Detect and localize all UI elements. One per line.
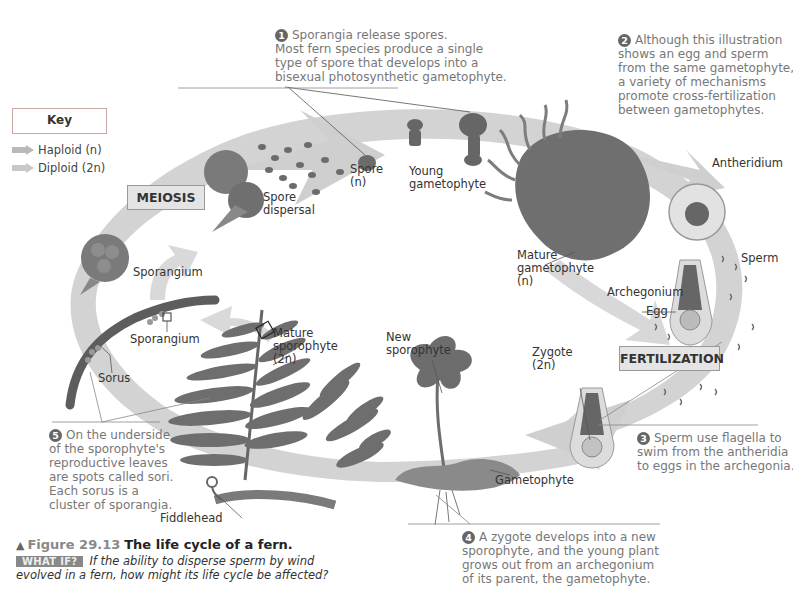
step-number-badge: 3 — [637, 432, 650, 445]
label-egg: Egg — [646, 305, 668, 318]
step-4: 4A zygote develops into a new sporophyte… — [462, 530, 659, 586]
figure-number: Figure 29.13 — [27, 537, 120, 552]
diploid-arrow-icon — [12, 163, 34, 173]
caption-title-line: ▲Figure 29.13The life cycle of a fern. — [16, 537, 476, 552]
step-number-badge: 1 — [275, 29, 288, 42]
what-if-line: WHAT IF?If the ability to disperse sperm… — [16, 554, 476, 568]
step-2: 2Although this illustration shows an egg… — [618, 33, 793, 117]
new-sporophyte — [395, 336, 520, 525]
label-mature-gametophyte: Maturegametophyte(n) — [517, 249, 594, 288]
stage-fertilization: FERTILIZATION — [619, 346, 720, 371]
label-sporangium-leaf: Sporangium — [130, 333, 200, 346]
label-spore-dispersal: Sporedispersal — [263, 191, 315, 217]
label-zygote: Zygote(2n) — [532, 346, 573, 372]
step-number-badge: 5 — [49, 429, 62, 442]
step-5: 5On the underside of the sporophyte's re… — [49, 428, 173, 512]
label-sporangium-top: Sporangium — [133, 266, 203, 279]
label-sorus: Sorus — [98, 372, 130, 385]
archegonium — [670, 260, 712, 345]
what-if-question-continued: evolved in a fern, how might its life cy… — [16, 568, 476, 582]
label-fiddlehead: Fiddlehead — [160, 512, 223, 525]
key-item-label: Haploid (n) — [38, 143, 102, 157]
antheridium — [669, 184, 725, 240]
label-spore: Spore(n) — [350, 163, 383, 189]
label-gametophyte: Gametophyte — [495, 474, 574, 487]
step-3: 3Sperm use flagella to swim from the ant… — [637, 431, 793, 473]
key-item-label: Diploid (2n) — [38, 161, 105, 175]
label-antheridium: Antheridium — [712, 157, 783, 170]
triangle-marker-icon: ▲ — [16, 539, 24, 552]
stage-meiosis: MEIOSIS — [127, 185, 205, 210]
what-if-badge: WHAT IF? — [16, 556, 83, 567]
key-item-diploid: Diploid (2n) — [12, 161, 105, 175]
label-archegonium: Archegonium — [607, 286, 683, 299]
haploid-arrow-icon — [12, 145, 34, 155]
step-1: 1Sporangia release spores. Most fern spe… — [275, 28, 507, 84]
key-title: Key — [12, 108, 107, 134]
label-sperm: Sperm — [741, 252, 778, 265]
key-item-haploid: Haploid (n) — [12, 143, 102, 157]
step-number-badge: 2 — [618, 34, 631, 47]
what-if-question: If the ability to disperse sperm by wind — [89, 554, 314, 568]
figure-caption: ▲Figure 29.13The life cycle of a fern. W… — [16, 537, 476, 582]
zygote-archegonium — [570, 388, 614, 468]
label-young-gametophyte: Younggametophyte — [409, 165, 486, 191]
figure-title: The life cycle of a fern. — [124, 537, 293, 552]
label-new-sporophyte: Newsporophyte — [386, 331, 451, 357]
label-mature-sporophyte: Maturesporophyte(2n) — [273, 327, 338, 366]
